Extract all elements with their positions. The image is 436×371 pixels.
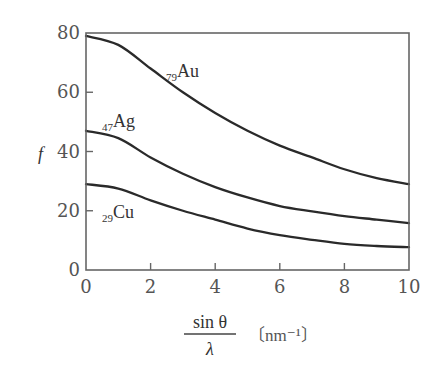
x-axis-unit: 〔nm⁻¹〕 (248, 326, 318, 345)
x-axis-label-numerator: sin θ (193, 312, 227, 332)
y-tick-label: 0 (69, 259, 80, 280)
plot-frame (86, 33, 409, 270)
x-tick-label: 6 (274, 276, 285, 297)
x-tick-label: 8 (339, 276, 350, 297)
x-axis-label-denominator: λ (205, 339, 214, 359)
curve-ag (86, 131, 409, 223)
x-tick-label: 10 (398, 276, 421, 297)
x-tick-label: 0 (80, 276, 91, 297)
y-tick-label: 80 (57, 22, 80, 43)
chart-canvas: 020406080 0246810 79Au 47Ag 29Cu f sin θ… (0, 0, 436, 371)
curves (86, 36, 409, 247)
y-axis-label: f (38, 144, 46, 164)
y-tick-label: 20 (57, 200, 80, 221)
series-label-cu: 29Cu (102, 202, 134, 224)
series-label-au: 79Au (166, 61, 199, 83)
x-axis-ticks: 0246810 (80, 263, 420, 297)
y-tick-label: 60 (57, 81, 80, 102)
y-axis-ticks: 020406080 (57, 22, 93, 280)
y-tick-label: 40 (57, 141, 80, 162)
x-tick-label: 2 (145, 276, 156, 297)
x-tick-label: 4 (209, 276, 220, 297)
curve-cu (86, 184, 409, 247)
series-label-ag: 47Ag (102, 111, 135, 133)
